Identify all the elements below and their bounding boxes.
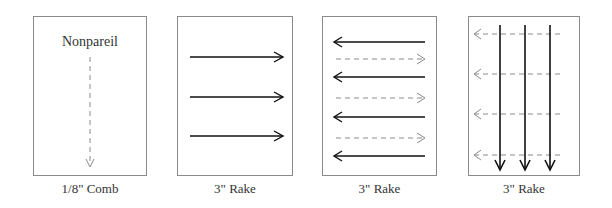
right-arrows-icon	[178, 17, 294, 177]
panel-rake-right	[177, 16, 293, 176]
caption-comb: 1/8" Comb	[33, 181, 147, 197]
caption-rake-3: 3" Rake	[468, 181, 580, 197]
dashed-down-arrow-icon	[34, 17, 148, 177]
caption-rake-1: 3" Rake	[177, 181, 293, 197]
panel-rake-down	[468, 16, 580, 176]
panel-rake-alternating	[322, 16, 437, 176]
panel-nonpareil-comb: Nonpareil	[33, 16, 147, 176]
alternating-arrows-icon	[323, 17, 438, 177]
down-arrows-icon	[469, 17, 581, 178]
caption-rake-2: 3" Rake	[322, 181, 437, 197]
